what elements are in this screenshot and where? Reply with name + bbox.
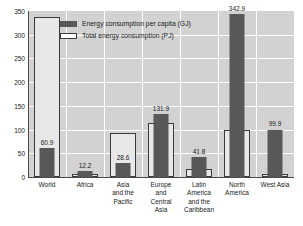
x-axis-line (28, 177, 294, 178)
bar-value-europe-central-asia: 131.9 (153, 105, 169, 113)
y-tick-200: 200 (1, 79, 25, 86)
y-tick-300: 300 (1, 32, 25, 39)
legend-label-total-energy: Total energy consumption (PJ) (82, 31, 174, 41)
bar-group-north-america: 342.9 (218, 11, 256, 177)
x-label-asia-pacific: Asia and the Pacific (104, 181, 142, 206)
y-axis-ticks: 350 300 250 200 150 100 50 0 (0, 0, 25, 226)
y-tick-0: 0 (1, 174, 25, 181)
bar-capita-world (40, 148, 55, 177)
legend-label-energy-per-capita: Energy consumption per capita (GJ) (82, 19, 191, 29)
x-label-west-asia: West Asia (254, 181, 296, 189)
chart-legend: Energy consumption per capita (GJ) Total… (60, 19, 191, 43)
bar-capita-europe-central-asia (154, 114, 169, 177)
bar-value-asia-pacific: 28.6 (117, 154, 130, 162)
bar-capita-north-america (230, 14, 245, 177)
bar-value-world: 60.9 (41, 139, 54, 147)
x-label-africa: Africa (66, 181, 104, 189)
bar-value-north-america: 342.9 (229, 5, 245, 13)
bar-value-latin-america: 41.8 (193, 148, 206, 156)
y-tick-100: 100 (1, 127, 25, 134)
bar-capita-asia-pacific (116, 163, 131, 177)
y-tick-250: 250 (1, 55, 25, 62)
legend-swatch-filled-icon (60, 21, 77, 27)
y-tick-350: 350 (1, 8, 25, 15)
y-tick-150: 150 (1, 103, 25, 110)
x-axis-labels: World Africa Asia and the Pacific Europe… (28, 181, 294, 226)
bar-capita-latin-america (192, 157, 207, 177)
bar-value-west-asia: 99.9 (269, 120, 282, 128)
bar-capita-west-asia (268, 130, 283, 177)
y-tick-50: 50 (1, 150, 25, 157)
legend-swatch-outlined-icon (60, 33, 77, 39)
x-label-world: World (28, 181, 66, 189)
bar-capita-africa (78, 171, 93, 177)
x-label-north-america: North America (218, 181, 256, 198)
x-label-europe-central-asia: Europe and Central Asia (142, 181, 180, 215)
energy-consumption-bar-chart: 350 300 250 200 150 100 50 0 60.9 (0, 0, 303, 226)
legend-item-total-energy: Total energy consumption (PJ) (60, 31, 191, 41)
legend-item-energy-per-capita: Energy consumption per capita (GJ) (60, 19, 191, 29)
bar-group-west-asia: 99.9 (256, 11, 294, 177)
bar-value-africa: 12.2 (79, 162, 92, 170)
x-label-latin-america: Latin America and the Caribbean (178, 181, 220, 215)
